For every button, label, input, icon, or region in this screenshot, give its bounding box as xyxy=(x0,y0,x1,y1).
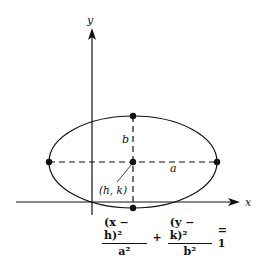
bottom-vertex-point xyxy=(130,205,136,211)
equation-term-y-denominator: b² xyxy=(184,244,197,258)
center-point xyxy=(130,159,136,165)
equation-term-y: (y − k)² b² xyxy=(168,216,212,258)
ellipse-equation: (x − h)² a² + (y − k)² b² = 1 xyxy=(100,219,240,255)
equation-term-x: (x − h)² a² xyxy=(102,216,147,258)
semi-minor-label: b xyxy=(122,133,129,146)
right-vertex-point xyxy=(214,159,220,165)
x-axis-label: x xyxy=(245,196,252,209)
center-label: (h, k) xyxy=(99,184,127,196)
equation-term-x-denominator: a² xyxy=(118,244,130,258)
equation-equals: = 1 xyxy=(218,224,236,250)
top-vertex-point xyxy=(130,113,136,119)
center-leader-line xyxy=(117,164,132,182)
y-axis-label: y xyxy=(86,14,94,27)
equation-plus: + xyxy=(153,231,162,244)
semi-major-label: a xyxy=(170,162,177,175)
equation-term-y-numerator: (y − k)² xyxy=(168,216,212,244)
left-vertex-point xyxy=(46,159,52,165)
equation-term-x-numerator: (x − h)² xyxy=(102,216,147,244)
